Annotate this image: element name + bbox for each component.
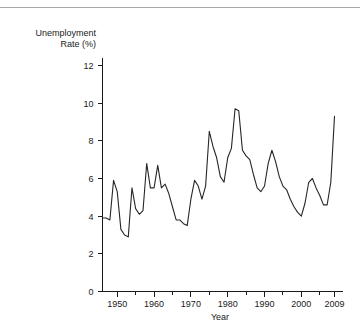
y-tick-label: 8 — [88, 136, 93, 146]
unemployment-rate-line-chart: 024681012 1950196019701980199020002009 — [0, 0, 360, 333]
x-tick-label: 2009 — [324, 299, 344, 309]
x-tick-label: 1960 — [144, 299, 164, 309]
y-tick-label: 12 — [83, 61, 93, 71]
x-tick-label: 1950 — [107, 299, 127, 309]
y-tick-label: 0 — [88, 287, 93, 297]
y-tick-marks — [98, 66, 103, 292]
unemployment-rate-series-line — [103, 109, 335, 237]
x-tick-labels: 1950196019701980199020002009 — [107, 299, 344, 309]
figure-container: Unemployment Rate (%) Year 024681012 195… — [0, 0, 360, 333]
x-tick-marks — [117, 292, 334, 297]
x-tick-label: 1980 — [218, 299, 238, 309]
y-tick-label: 6 — [88, 174, 93, 184]
y-tick-labels: 024681012 — [83, 61, 93, 297]
y-tick-label: 4 — [88, 212, 93, 222]
y-tick-label: 2 — [88, 249, 93, 259]
y-tick-label: 10 — [83, 99, 93, 109]
x-tick-label: 1990 — [255, 299, 275, 309]
x-tick-label: 1970 — [181, 299, 201, 309]
x-tick-label: 2000 — [291, 299, 311, 309]
